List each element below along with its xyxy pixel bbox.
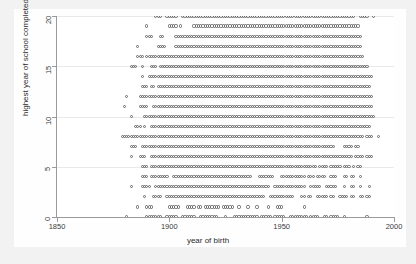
data-point bbox=[255, 205, 258, 208]
data-point bbox=[179, 24, 182, 27]
data-point bbox=[309, 195, 312, 198]
data-point bbox=[262, 195, 265, 198]
data-point bbox=[350, 145, 353, 148]
data-point bbox=[165, 175, 168, 178]
y-tick-mark-5 bbox=[52, 167, 56, 168]
data-point bbox=[152, 85, 155, 88]
x-tick-label-2000: 2000 bbox=[386, 223, 403, 231]
data-point bbox=[130, 185, 133, 188]
data-point bbox=[345, 175, 348, 178]
y-tick-label-15: 15 bbox=[44, 66, 52, 74]
data-point bbox=[177, 205, 180, 208]
data-point bbox=[143, 155, 146, 158]
data-point bbox=[280, 205, 283, 208]
y-tick-mark-15 bbox=[52, 66, 56, 67]
data-point bbox=[368, 195, 371, 198]
data-point bbox=[345, 195, 348, 198]
data-point bbox=[334, 175, 337, 178]
data-point bbox=[323, 175, 326, 178]
y-tick-label-20: 20 bbox=[44, 16, 52, 24]
data-point bbox=[143, 125, 146, 128]
data-point bbox=[370, 135, 373, 138]
y-tick-mark-10 bbox=[52, 117, 56, 118]
data-point bbox=[370, 95, 373, 98]
data-point bbox=[141, 65, 144, 68]
data-point bbox=[356, 145, 359, 148]
data-point bbox=[174, 16, 177, 18]
data-point bbox=[303, 195, 306, 198]
data-point bbox=[141, 55, 144, 58]
data-point bbox=[361, 55, 364, 58]
y-tick-mark-20 bbox=[52, 16, 56, 17]
data-point bbox=[163, 45, 166, 48]
x-tick-label-1900: 1900 bbox=[161, 223, 178, 231]
data-point bbox=[145, 105, 148, 108]
data-point bbox=[361, 155, 364, 158]
data-point bbox=[246, 205, 249, 208]
data-point bbox=[338, 165, 341, 168]
data-point bbox=[370, 105, 373, 108]
data-point bbox=[237, 205, 240, 208]
data-point bbox=[150, 205, 153, 208]
y-tick-label-0: 0 bbox=[44, 217, 52, 221]
data-point bbox=[123, 105, 126, 108]
data-point bbox=[372, 115, 375, 118]
data-point bbox=[359, 175, 362, 178]
data-point bbox=[350, 155, 353, 158]
x-axis-label: year of birth bbox=[0, 237, 416, 245]
y-tick-0: 0 bbox=[0, 217, 50, 218]
data-point bbox=[145, 165, 148, 168]
data-point bbox=[130, 115, 133, 118]
data-point bbox=[303, 185, 306, 188]
data-point bbox=[130, 155, 133, 158]
data-point bbox=[356, 24, 359, 27]
y-tick-label-10: 10 bbox=[44, 116, 52, 124]
data-point bbox=[368, 85, 371, 88]
x-axis-line bbox=[56, 217, 395, 218]
data-point bbox=[267, 185, 270, 188]
data-point bbox=[347, 165, 350, 168]
data-point bbox=[143, 195, 146, 198]
data-point bbox=[361, 195, 364, 198]
data-point bbox=[370, 75, 373, 78]
data-point bbox=[192, 205, 195, 208]
data-point bbox=[361, 135, 364, 138]
data-point bbox=[231, 205, 234, 208]
data-point bbox=[352, 16, 355, 18]
data-point bbox=[134, 65, 137, 68]
data-point bbox=[161, 35, 164, 38]
data-point bbox=[136, 45, 139, 48]
data-point bbox=[359, 185, 362, 188]
data-point bbox=[325, 195, 328, 198]
data-point bbox=[141, 75, 144, 78]
data-point bbox=[372, 16, 375, 18]
data-point bbox=[303, 205, 306, 208]
data-point bbox=[365, 16, 368, 18]
data-point bbox=[145, 85, 148, 88]
data-point bbox=[199, 205, 202, 208]
data-point bbox=[303, 175, 306, 178]
data-point bbox=[159, 195, 162, 198]
data-point bbox=[139, 125, 142, 128]
scatter-plot-figure: 05101520 1850190019502000 highest year o… bbox=[0, 0, 416, 264]
x-tick-label-1850: 1850 bbox=[49, 223, 66, 231]
data-point bbox=[312, 175, 315, 178]
data-point bbox=[217, 205, 220, 208]
data-point bbox=[370, 155, 373, 158]
data-point bbox=[343, 185, 346, 188]
data-point bbox=[368, 125, 371, 128]
data-point bbox=[334, 185, 337, 188]
data-point bbox=[159, 16, 162, 18]
data-point bbox=[150, 35, 153, 38]
data-point bbox=[365, 65, 368, 68]
data-point bbox=[352, 185, 355, 188]
data-point bbox=[318, 185, 321, 188]
data-point bbox=[271, 175, 274, 178]
y-tick-5: 5 bbox=[0, 167, 50, 168]
data-point bbox=[368, 185, 371, 188]
data-point bbox=[332, 195, 335, 198]
data-point bbox=[352, 165, 355, 168]
x-tick-label-1950: 1950 bbox=[273, 223, 290, 231]
data-point bbox=[267, 205, 270, 208]
y-axis-line bbox=[56, 16, 57, 218]
